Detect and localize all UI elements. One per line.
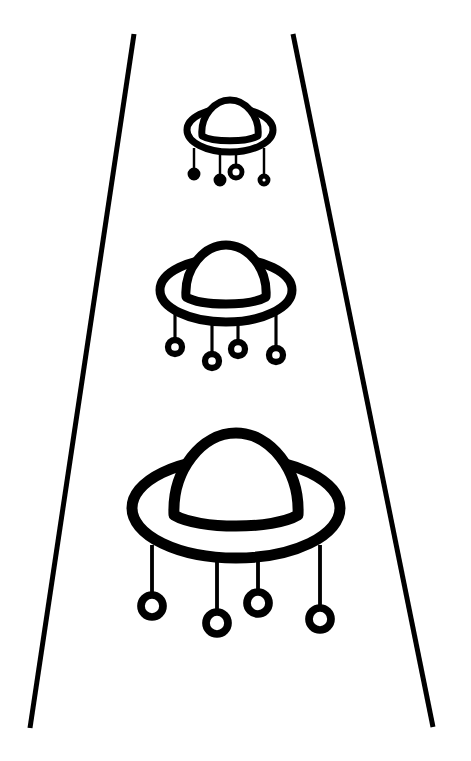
ufo-leg bbox=[247, 555, 269, 614]
ufo-leg bbox=[168, 314, 182, 354]
beam-left-line bbox=[30, 34, 134, 728]
illustration-canvas bbox=[0, 0, 471, 761]
ufo-medium bbox=[160, 245, 292, 368]
leg-ball-icon bbox=[190, 170, 198, 178]
leg-ball-icon bbox=[206, 612, 228, 634]
leg-ball-icon bbox=[309, 608, 331, 630]
saucer-dome bbox=[186, 245, 266, 304]
ufo-small bbox=[187, 100, 273, 184]
ufo-beam-illustration bbox=[0, 0, 471, 761]
leg-ball-icon bbox=[260, 176, 268, 184]
ufo-leg bbox=[260, 148, 268, 184]
saucer-dome bbox=[174, 433, 298, 526]
ufo-leg bbox=[309, 545, 331, 630]
leg-ball-icon bbox=[247, 592, 269, 614]
leg-ball-icon bbox=[231, 342, 245, 356]
ufo-group bbox=[132, 100, 340, 634]
saucer-dome bbox=[202, 100, 258, 141]
leg-ball-icon bbox=[269, 348, 283, 362]
leg-ball-icon bbox=[168, 340, 182, 354]
ufo-leg bbox=[269, 312, 283, 362]
leg-ball-icon bbox=[216, 176, 224, 184]
ufo-leg bbox=[141, 545, 163, 617]
ufo-leg bbox=[216, 152, 224, 184]
leg-ball-icon bbox=[230, 166, 242, 178]
ufo-leg bbox=[205, 320, 219, 368]
leg-ball-icon bbox=[205, 354, 219, 368]
ufo-leg bbox=[230, 152, 242, 178]
leg-ball-icon bbox=[141, 595, 163, 617]
ufo-large bbox=[132, 433, 340, 634]
ufo-leg bbox=[206, 555, 228, 634]
ufo-leg bbox=[190, 148, 198, 178]
